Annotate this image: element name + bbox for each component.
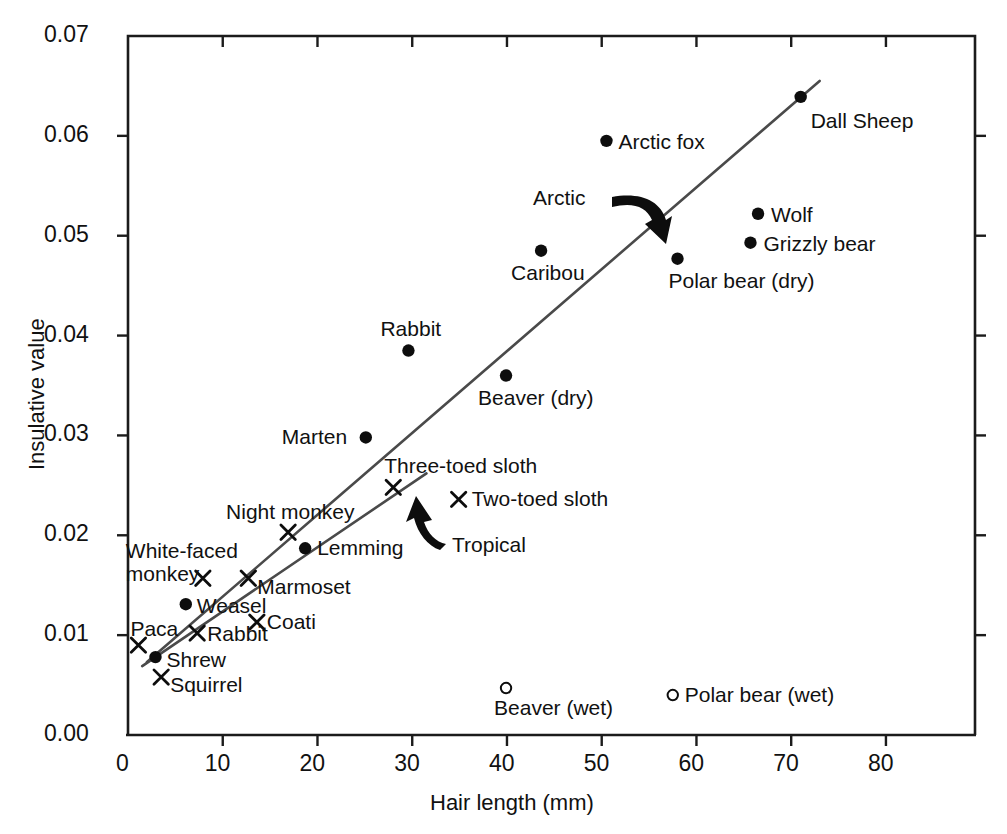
point-label: Squirrel (170, 673, 242, 696)
trend-lines (142, 81, 819, 666)
point-label: Polar bear (dry) (669, 269, 815, 292)
data-point-marker (794, 91, 806, 103)
x-tick-label: 0 (116, 750, 129, 777)
point-label: Marmoset (257, 575, 350, 598)
point-label: Polar bear (wet) (685, 683, 834, 706)
chart-figure: Dall SheepArctic foxWolfGrizzly bearPola… (0, 0, 1007, 834)
data-point-marker (500, 369, 512, 381)
data-point-marker (451, 492, 465, 506)
x-tick-label: 20 (299, 750, 325, 777)
x-tick-label: 30 (394, 750, 420, 777)
data-point-marker (600, 135, 612, 147)
point-label: Three-toed sloth (384, 454, 537, 477)
data-point-marker (671, 252, 683, 264)
y-tick-label: 0.00 (44, 720, 89, 747)
data-point-marker (180, 598, 192, 610)
y-tick-label: 0.06 (44, 121, 89, 148)
y-axis-title: Insulative value (24, 318, 50, 470)
data-point-marker (744, 237, 756, 249)
point-label: Coati (267, 610, 316, 633)
data-point-marker (386, 480, 400, 494)
data-point-marker (402, 344, 414, 356)
trend-line-annotation: Arctic (533, 186, 586, 209)
x-tick-label: 10 (205, 750, 231, 777)
point-label: Rabbit (380, 317, 441, 340)
x-tick-label: 60 (678, 750, 704, 777)
point-label: Weasel (197, 594, 267, 617)
point-label: Shrew (166, 648, 226, 671)
y-tick-label: 0.05 (44, 221, 89, 248)
x-tick-label: 70 (773, 750, 799, 777)
y-tick-label: 0.01 (44, 620, 89, 647)
point-label: Arctic fox (618, 130, 704, 153)
data-point-marker (668, 690, 678, 700)
point-label: Beaver (dry) (478, 386, 594, 409)
y-tick-label: 0.04 (44, 321, 89, 348)
point-label: Two-toed sloth (472, 487, 609, 510)
x-tick-label: 50 (584, 750, 610, 777)
point-label: Grizzly bear (763, 232, 875, 255)
point-label: Wolf (771, 203, 813, 226)
y-tick-label: 0.03 (44, 420, 89, 447)
x-tick-label: 80 (868, 750, 894, 777)
data-point-marker (360, 431, 372, 443)
point-label: Caribou (511, 261, 585, 284)
point-label: Rabbit (207, 622, 268, 645)
data-point-marker (281, 525, 295, 539)
data-point-marker (154, 670, 168, 684)
data-point-marker (501, 683, 511, 693)
point-label: Paca (130, 617, 178, 640)
data-point-marker (535, 244, 547, 256)
trend-line-annotation: Tropical (452, 533, 526, 556)
x-tick-label: 40 (489, 750, 515, 777)
data-point-marker (752, 208, 764, 220)
point-label: Lemming (317, 536, 403, 559)
y-tick-label: 0.02 (44, 520, 89, 547)
data-point-marker (299, 542, 311, 554)
point-label: Dall Sheep (811, 109, 914, 132)
point-label: Night monkey (226, 500, 354, 523)
data-point-marker (149, 651, 161, 663)
x-axis-title: Hair length (mm) (430, 790, 594, 816)
point-label: Marten (282, 425, 347, 448)
y-tick-label: 0.07 (44, 21, 89, 48)
point-label: White-faced monkey (126, 539, 238, 585)
point-label: Beaver (wet) (494, 696, 613, 719)
